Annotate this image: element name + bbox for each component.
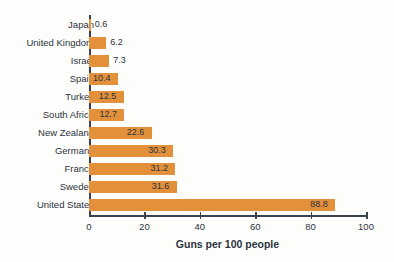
bar-category-label: Israel: [0, 54, 94, 67]
bar-row: Germany30.3: [0, 145, 394, 157]
x-tick-mark: [200, 212, 202, 219]
bar-value-label: 6.2: [110, 36, 123, 49]
bar-row: France31.2: [0, 163, 394, 175]
bar-wrapper: 12.5: [89, 91, 366, 103]
x-tick-mark: [144, 212, 146, 219]
bar-row: United States88.8: [0, 199, 394, 211]
bar-row: Japan0.6: [0, 19, 394, 31]
bar: [89, 199, 335, 211]
x-tick-label: 100: [358, 221, 374, 232]
bar-category-label: Germany: [0, 144, 94, 157]
x-tick-label: 60: [250, 221, 261, 232]
bar: [89, 19, 91, 31]
x-tick-label: 20: [139, 221, 150, 232]
bar-value-label: 12.7: [99, 108, 117, 121]
bar: [89, 37, 106, 49]
x-tick-mark: [255, 212, 257, 219]
bar-row: Israel7.3: [0, 55, 394, 67]
bar-value-label: 31.2: [151, 162, 169, 175]
bar-wrapper: 88.8: [89, 199, 366, 211]
x-tick-mark: [311, 212, 313, 219]
x-tick-label: 0: [86, 221, 91, 232]
bar-wrapper: 0.6: [89, 19, 366, 31]
bar-category-label: United States: [0, 198, 94, 211]
bar-value-label: 10.4: [93, 72, 111, 85]
bar-value-label: 7.3: [113, 54, 126, 67]
bar-row: South Africa12.7: [0, 109, 394, 121]
bar-value-label: 31.6: [152, 180, 170, 193]
bar-category-label: Spain: [0, 72, 94, 85]
bar-category-label: France: [0, 162, 94, 175]
bar-row: New Zealand22.6: [0, 127, 394, 139]
bar-value-label: 12.5: [99, 90, 117, 103]
bar-wrapper: 30.3: [89, 145, 366, 157]
bar-value-label: 22.6: [127, 126, 145, 139]
bar-chart: Japan0.6United Kingdom6.2Israel7.3Spain1…: [0, 0, 394, 262]
bar-category-label: South Africa: [0, 108, 94, 121]
bar-wrapper: 31.2: [89, 163, 366, 175]
bar-wrapper: 22.6: [89, 127, 366, 139]
bar-wrapper: 12.7: [89, 109, 366, 121]
x-axis-ticks: 020406080100: [89, 215, 366, 237]
plot-area: Japan0.6United Kingdom6.2Israel7.3Spain1…: [0, 0, 394, 262]
x-tick-mark: [366, 212, 368, 219]
bar-value-label: 30.3: [148, 144, 166, 157]
bar-row: United Kingdom6.2: [0, 37, 394, 49]
bar-wrapper: 31.6: [89, 181, 366, 193]
bar-row: Spain10.4: [0, 73, 394, 85]
bar-category-label: Japan: [0, 18, 94, 31]
bar-wrapper: 10.4: [89, 73, 366, 85]
bar-wrapper: 7.3: [89, 55, 366, 67]
bar-row: Turkey12.5: [0, 91, 394, 103]
x-tick-label: 40: [195, 221, 206, 232]
bar-rows: Japan0.6United Kingdom6.2Israel7.3Spain1…: [0, 19, 394, 217]
x-tick-label: 80: [305, 221, 316, 232]
bar-value-label: 88.8: [310, 198, 328, 211]
bar-category-label: Turkey: [0, 90, 94, 103]
bar-category-label: United Kingdom: [0, 36, 94, 49]
bar-category-label: Sweden: [0, 180, 94, 193]
bar-wrapper: 6.2: [89, 37, 366, 49]
bar-value-label: 0.6: [95, 18, 108, 31]
bar-row: Sweden31.6: [0, 181, 394, 193]
bar: [89, 55, 109, 67]
x-axis-title: Guns per 100 people: [89, 238, 366, 250]
bar-category-label: New Zealand: [0, 126, 94, 139]
